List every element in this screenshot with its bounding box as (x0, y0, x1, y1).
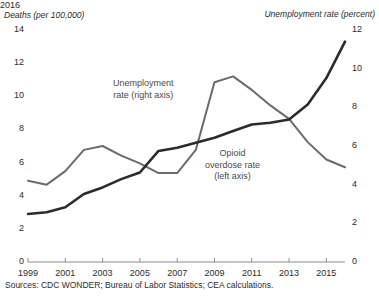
opioid-series-label-line1: Opioid (205, 148, 260, 160)
unemployment-rate-line (28, 76, 345, 184)
unemployment-series-label-line1: Unemployment (113, 78, 174, 90)
opioid-overdose-rate-line (28, 42, 345, 214)
x-axis-tick-marks (28, 258, 326, 262)
opioid-series-label: Opioid overdose rate (left axis) (205, 148, 260, 183)
unemployment-series-label-line2: rate (right axis) (113, 90, 174, 102)
source-note: Sources: CDC WONDER; Bureau of Labor Sta… (5, 280, 273, 290)
opioid-series-label-line2: overdose rate (205, 160, 260, 172)
opioid-series-label-line3: (left axis) (205, 171, 260, 183)
opioid-unemployment-chart: Deaths (per 100,000) Unemployment rate (… (0, 0, 379, 297)
unemployment-series-label: Unemployment rate (right axis) (113, 78, 174, 101)
plot-area (0, 0, 379, 297)
